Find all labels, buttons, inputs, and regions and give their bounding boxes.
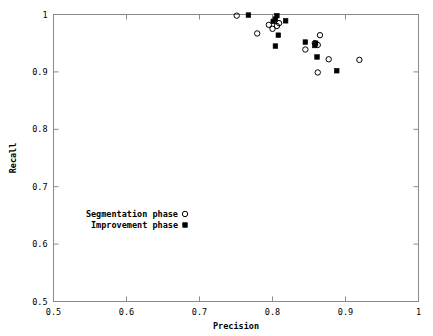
data-point-improvement bbox=[315, 55, 320, 60]
y-tick-label: 0.7 bbox=[32, 182, 47, 192]
x-tick-label: 1 bbox=[416, 307, 421, 317]
y-tick-label: 1 bbox=[42, 10, 47, 20]
plot-frame bbox=[54, 15, 419, 302]
data-point-improvement bbox=[246, 13, 251, 18]
data-point-segmentation bbox=[303, 47, 308, 52]
legend-label-improvement: Improvement phase bbox=[91, 220, 178, 230]
y-tick-label: 0.9 bbox=[32, 67, 47, 77]
data-point-segmentation bbox=[254, 31, 259, 36]
scatter-plot-figure: 0.50.60.70.80.910.50.60.70.80.91Precisio… bbox=[0, 0, 433, 336]
x-tick-label: 0.5 bbox=[46, 307, 61, 317]
x-tick-label: 0.8 bbox=[265, 307, 280, 317]
data-point-segmentation bbox=[317, 32, 322, 37]
legend-marker-segmentation bbox=[182, 211, 187, 216]
y-axis-title: Recall bbox=[8, 143, 18, 174]
legend-marker-improvement bbox=[183, 223, 188, 228]
y-tick-label: 0.8 bbox=[32, 124, 47, 134]
y-tick-label: 0.5 bbox=[32, 297, 47, 307]
x-tick-label: 0.7 bbox=[192, 307, 207, 317]
data-point-improvement bbox=[275, 13, 280, 18]
data-point-improvement bbox=[303, 40, 308, 45]
data-point-improvement bbox=[276, 33, 281, 38]
y-tick-label: 0.6 bbox=[32, 239, 47, 249]
x-axis-title: Precision bbox=[213, 321, 259, 331]
x-tick-label: 0.6 bbox=[119, 307, 134, 317]
data-point-improvement bbox=[283, 19, 288, 24]
data-point-segmentation bbox=[234, 13, 239, 18]
legend-label-segmentation: Segmentation phase bbox=[86, 209, 178, 219]
data-point-segmentation bbox=[357, 57, 362, 62]
data-point-improvement bbox=[313, 41, 318, 46]
x-tick-label: 0.9 bbox=[338, 307, 353, 317]
data-point-improvement bbox=[273, 44, 278, 49]
data-point-segmentation bbox=[326, 57, 331, 62]
data-point-improvement bbox=[334, 68, 339, 73]
chart-canvas: 0.50.60.70.80.910.50.60.70.80.91Precisio… bbox=[0, 0, 433, 336]
data-point-segmentation bbox=[315, 70, 320, 75]
